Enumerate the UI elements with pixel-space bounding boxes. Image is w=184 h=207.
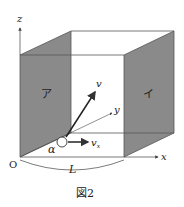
origin-label: O bbox=[9, 159, 17, 170]
wall-i-label: イ bbox=[143, 88, 154, 101]
wall-a-label: ア bbox=[41, 88, 52, 101]
length-label: L bbox=[68, 163, 76, 176]
cube-diagram: z x y O ア イ v vx α L 図2 bbox=[0, 0, 184, 207]
y-label: y bbox=[113, 104, 120, 115]
figure-caption: 図2 bbox=[76, 187, 94, 200]
velocity-label: v bbox=[96, 78, 102, 89]
x-label: x bbox=[161, 151, 167, 162]
alpha-particle bbox=[57, 137, 67, 147]
alpha-label: α bbox=[48, 143, 56, 156]
z-label: z bbox=[16, 13, 23, 24]
velocity-x-label: vx bbox=[91, 137, 101, 149]
